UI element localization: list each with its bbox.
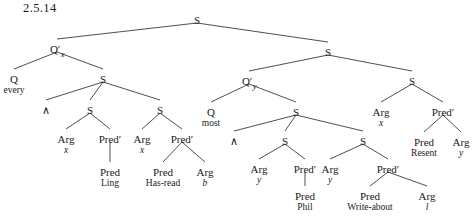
node-label: S (293, 106, 299, 118)
tree-node-root-s: S (194, 11, 200, 28)
node-variable: x (58, 146, 75, 156)
tree-edge (363, 144, 388, 159)
node-label: Pred′ (294, 163, 317, 175)
node-label: Q′y (242, 75, 256, 87)
node-label: Arg (197, 166, 214, 178)
tree-node-right-arg-y1: Argy (251, 160, 268, 186)
node-label: Arg (419, 190, 436, 202)
node-label: S (409, 75, 415, 87)
tree-node-left-conj: ∧ (42, 101, 50, 118)
tree-node-right-q: Qmost (202, 103, 220, 129)
tree-node-left-s2: S (87, 101, 93, 118)
node-label: Pred′ (377, 163, 400, 175)
node-word: Ling (100, 179, 120, 189)
tree-node-left-q: Qevery (3, 70, 24, 96)
tree-edge (412, 84, 443, 102)
tree-node-far-s: S (409, 72, 415, 89)
node-variable: l (419, 203, 436, 213)
tree-edge (249, 55, 328, 71)
node-label: Arg (251, 163, 268, 175)
node-word: Phil (295, 203, 315, 213)
tree-node-right-s2: S (282, 132, 288, 149)
node-label: S (282, 135, 288, 147)
tree-edges (0, 0, 476, 221)
tree-edge (330, 144, 363, 159)
node-label: S (157, 104, 163, 116)
node-label: Pred′ (171, 133, 194, 145)
node-label: Q (10, 73, 18, 85)
tree-node-left-pred-ling: PredLing (100, 163, 120, 189)
tree-edge (160, 113, 182, 129)
tree-node-right-conj: ∧ (230, 132, 238, 149)
node-variable: y (453, 149, 470, 159)
tree-node-right-pred-phil: PredPhil (295, 187, 315, 213)
node-variable: x (373, 119, 390, 129)
syntax-tree-figure: 2.5.14 SQ′xQeveryS∧SSArgxPred′PredLingAr… (0, 0, 476, 221)
tree-node-right-qprime: Q′y (242, 72, 256, 90)
tree-node-right-s3: S (360, 132, 366, 149)
tree-node-left-predprime2: Pred′ (171, 130, 194, 147)
node-word: every (3, 86, 24, 96)
node-label: ∧ (230, 135, 238, 147)
node-label: ∧ (42, 104, 50, 116)
tree-node-left-s3: S (157, 101, 163, 118)
tree-edge (197, 23, 328, 42)
tree-edge (381, 84, 412, 102)
tree-edge (46, 82, 103, 100)
node-label: Q (207, 106, 215, 118)
tree-node-left-pred-hasread: PredHas-read (146, 163, 180, 189)
node-label: Arg (373, 106, 390, 118)
node-label: S (87, 104, 93, 116)
node-word: Write-about (347, 203, 393, 213)
tree-node-left-qprime: Q′x (50, 40, 64, 58)
node-word: Has-read (146, 179, 180, 189)
tree-edge (103, 82, 160, 100)
tree-node-right-predprime1: Pred′ (294, 160, 317, 177)
node-label: S (360, 135, 366, 147)
node-label: Pred (153, 166, 173, 178)
node-subscript: x (61, 49, 65, 59)
tree-node-far-arg-x: Argx (373, 103, 390, 129)
node-label: Pred (100, 166, 120, 178)
node-label: S (100, 73, 106, 85)
tree-node-right-predprime2: Pred′ (377, 160, 400, 177)
node-label: Pred′ (432, 106, 455, 118)
tree-node-left-predprime1: Pred′ (99, 130, 122, 147)
node-label: Arg (134, 133, 151, 145)
node-variable: y (251, 176, 268, 186)
tree-node-left-arg-x2: Argx (134, 130, 151, 156)
node-subscript: y (253, 81, 257, 91)
tree-node-right-arg-y2: Argy (322, 160, 339, 186)
node-label: Pred (360, 190, 380, 202)
tree-edge (328, 55, 412, 71)
tree-node-far-pred-resent: PredResent (411, 133, 437, 159)
tree-node-right-pred-write: PredWrite-about (347, 187, 393, 213)
node-word: Resent (411, 149, 437, 159)
tree-node-right-arg-l: Argl (419, 187, 436, 213)
node-variable: b (197, 179, 214, 189)
node-variable: x (134, 146, 151, 156)
node-word: most (202, 119, 220, 129)
tree-node-left-arg-x1: Argx (58, 130, 75, 156)
tree-node-right-s1: S (293, 103, 299, 120)
node-label: Q′x (50, 43, 64, 55)
tree-node-left-arg-b: Argb (197, 163, 214, 189)
tree-edge (296, 115, 363, 131)
tree-edge (57, 23, 197, 39)
tree-node-left-s1: S (100, 70, 106, 87)
node-variable: y (322, 176, 339, 186)
tree-node-far-predprime: Pred′ (432, 103, 455, 120)
node-label: Arg (58, 133, 75, 145)
node-label: Arg (453, 136, 470, 148)
tree-node-right-s: S (325, 43, 331, 60)
node-label: S (325, 46, 331, 58)
node-label: Pred (295, 190, 315, 202)
node-label: S (194, 14, 200, 26)
tree-node-far-arg-y: Argy (453, 133, 470, 159)
node-label: Pred′ (99, 133, 122, 145)
node-label: Arg (322, 163, 339, 175)
node-label: Pred (414, 136, 434, 148)
